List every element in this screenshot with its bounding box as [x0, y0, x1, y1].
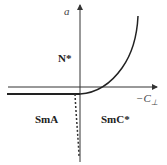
y-axis-label: a: [64, 5, 70, 17]
x-axis-label-main: −C: [136, 92, 151, 104]
n-smc-boundary-curve: [80, 16, 138, 94]
phase-diagram-canvas: [0, 0, 167, 165]
region-label-sma: SmA: [35, 113, 58, 125]
x-axis-label-subscript: ⊥: [151, 98, 158, 107]
region-label-smc-star: SmC*: [101, 113, 130, 125]
sma-smc-dashed-boundary: [75, 94, 79, 156]
x-axis-label: −C⊥: [136, 92, 158, 107]
region-label-n-star: N*: [58, 52, 71, 64]
